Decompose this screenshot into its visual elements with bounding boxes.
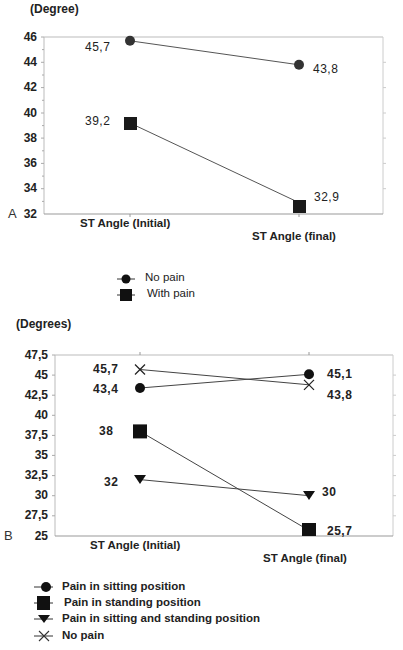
y-tick: 32,5: [14, 468, 48, 482]
y-tick: 42,5: [14, 388, 48, 402]
chart-b-panel-letter: B: [4, 528, 13, 543]
y-tick: 37,5: [14, 428, 48, 442]
y-tick: 35: [14, 448, 48, 462]
chart-b-line-sitting-standing: [140, 480, 309, 496]
data-label: 25,7: [327, 524, 352, 538]
data-label: 43,4: [93, 382, 118, 396]
y-tick: 27,5: [14, 508, 48, 522]
y-tick: 47,5: [14, 348, 48, 362]
data-label: 45,1: [327, 367, 352, 381]
legend-item: Pain in sitting and standing position: [62, 612, 260, 624]
x-category: ST Angle (final): [263, 552, 347, 564]
chart-b-point-sitting-initial: [135, 383, 145, 393]
y-tick: 45: [14, 368, 48, 382]
legend-item: Pain in standing position: [64, 596, 201, 608]
data-label: 45,7: [93, 362, 118, 376]
y-tick: 40: [14, 408, 48, 422]
y-tick: 30: [14, 488, 48, 502]
legend-item: No pain: [62, 629, 104, 641]
chart-b-line-sitting: [140, 374, 309, 388]
data-label: 43,8: [327, 388, 352, 402]
data-label: 32: [104, 475, 118, 489]
x-category: ST Angle (Initial): [90, 539, 180, 551]
data-label: 38: [99, 424, 113, 438]
chart-b-point-standing-final: [302, 523, 316, 536]
chart-b-point-sitting-final: [304, 369, 314, 379]
y-tick: 25: [14, 529, 48, 543]
legend-item: Pain in sitting position: [62, 580, 185, 592]
data-label: 30: [322, 485, 336, 499]
chart-b-line-standing: [140, 431, 309, 530]
chart-b-point-standing-initial: [133, 424, 147, 438]
chart-b-line-no-pain: [140, 370, 309, 385]
